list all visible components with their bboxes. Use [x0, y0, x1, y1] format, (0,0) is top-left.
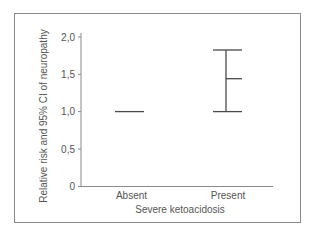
- y-axis-title: Relative risk and 95% CI of neuropathy: [38, 29, 49, 202]
- error-bar-chart: 2,0 1,5 1,0 0,5 0 Relative risk and 95% …: [0, 0, 317, 233]
- y-tick-label: 0: [69, 181, 75, 192]
- y-tick-label: 1,0: [61, 106, 75, 117]
- y-tick-label: 2,0: [61, 32, 75, 43]
- y-tick-label: 1,5: [61, 69, 75, 80]
- x-category-label-present: Present: [211, 190, 246, 201]
- y-tick-labels: 2,0 1,5 1,0 0,5 0: [61, 32, 75, 193]
- y-tick-label: 0,5: [61, 144, 75, 155]
- x-axis-title: Severe ketoacidosis: [135, 204, 225, 215]
- x-category-label-absent: Absent: [116, 190, 147, 201]
- series-present: [213, 50, 242, 112]
